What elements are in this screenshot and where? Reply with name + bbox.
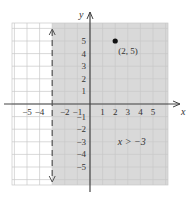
y-tick-label: 4 [82, 49, 87, 59]
x-tick-label: 4 [138, 107, 143, 117]
x-tick-label: 1 [100, 107, 105, 117]
x-axis-label: x [180, 106, 186, 117]
data-point [113, 38, 118, 43]
y-tick-label: −5 [76, 162, 86, 172]
y-tick-label: 2 [82, 74, 87, 84]
y-tick-label: 5 [82, 36, 87, 46]
inequality-label: x > −3 [117, 136, 146, 147]
y-tick-label: −2 [76, 124, 86, 134]
x-tick-label: 5 [151, 107, 156, 117]
y-tick-label: −1 [76, 112, 86, 122]
y-tick-label: −3 [76, 137, 86, 147]
y-axis-label: y [78, 9, 84, 20]
coordinate-plane: xy−5−4−2−11234554321−1−2−3−4−5(2, 5)x > … [0, 0, 191, 198]
x-tick-label: −5 [22, 107, 32, 117]
point-label: (2, 5) [118, 46, 138, 56]
x-tick-label: 3 [126, 107, 131, 117]
x-tick-label: −2 [60, 107, 70, 117]
x-tick-label: −4 [35, 107, 45, 117]
x-tick-label: 2 [113, 107, 118, 117]
y-tick-label: 1 [82, 86, 87, 96]
y-tick-label: −4 [76, 149, 86, 159]
y-tick-label: 3 [82, 61, 87, 71]
